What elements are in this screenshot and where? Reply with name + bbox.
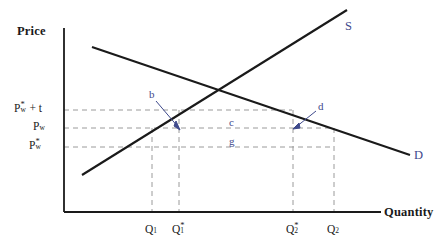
price-tick-suffix: + t [29, 102, 42, 114]
quantity-tick-base: Q [145, 223, 153, 235]
price-tick-pw-star-plus-t: Pw*+ t [14, 103, 42, 115]
quantity-tick-sub: 1 [153, 227, 157, 235]
area-label-d: d [318, 101, 324, 112]
quantity-tick-q2-star: Q2* [286, 224, 294, 236]
arrow-head-d [293, 123, 300, 129]
quantity-tick-base: Q [286, 223, 294, 235]
price-tick-sup: * [35, 137, 39, 146]
demand-curve-label: D [414, 149, 423, 162]
price-tick-pw: Pw [33, 121, 39, 133]
supply-curve-label: S [345, 20, 352, 33]
quantity-tick-sup: * [294, 221, 298, 230]
area-label-c: c [229, 117, 234, 128]
quantity-tick-q2: Q2 [327, 224, 335, 236]
supply-curve [82, 10, 347, 175]
quantity-tick-base: Q [172, 223, 180, 235]
area-label-g: g [229, 136, 235, 147]
quantity-tick-sup: * [180, 221, 184, 230]
quantity-tick-q1-star: Q1* [172, 224, 180, 236]
area-label-b: b [149, 89, 155, 100]
price-tick-sub: w [39, 124, 44, 132]
quantity-tick-q1: Q1 [145, 224, 153, 236]
quantity-tick-base: Q [327, 223, 335, 235]
x-axis-title: Quantity [384, 206, 434, 219]
supply-demand-tariff-diagram: Price Quantity S D Pw*+ t Pw Pw* Q1 Q1* … [0, 0, 447, 248]
diagram-canvas [0, 0, 447, 248]
price-tick-pw-star: Pw* [29, 140, 35, 152]
price-tick-sup: * [20, 100, 24, 109]
y-axis-title: Price [17, 25, 46, 38]
quantity-tick-sub: 2 [335, 227, 339, 235]
